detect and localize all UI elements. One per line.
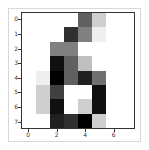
heatmap-cell (78, 13, 92, 27)
heatmap-cell (22, 99, 36, 113)
heatmap-cell (106, 85, 120, 99)
heatmap-cell (22, 71, 36, 85)
heatmap-cell (22, 13, 36, 27)
heatmap-cell (64, 85, 78, 99)
y-tick-mark (18, 107, 21, 108)
x-tick-label: 2 (52, 132, 62, 138)
y-tick-mark (18, 34, 21, 35)
heatmap-cell (36, 85, 50, 99)
heatmap-cell (22, 42, 36, 56)
x-tick-mark (85, 129, 86, 132)
y-tick-mark (18, 63, 21, 64)
heatmap-cell (22, 56, 36, 70)
y-tick-mark (18, 49, 21, 50)
heatmap-cell (78, 99, 92, 113)
heatmap-cell (36, 13, 50, 27)
y-tick-mark (18, 122, 21, 123)
heatmap-cell (78, 56, 92, 70)
heatmap-cell (106, 99, 120, 113)
x-tick-mark (28, 129, 29, 132)
y-tick-label: 4 (10, 75, 18, 81)
heatmap-cell (120, 56, 134, 70)
heatmap-cell (36, 42, 50, 56)
plot-axes (21, 12, 135, 129)
x-tick-label: 0 (23, 132, 33, 138)
y-tick-label: 6 (10, 104, 18, 110)
x-tick-mark (114, 129, 115, 132)
heatmap-cell (92, 85, 106, 99)
heatmap-image (22, 13, 134, 128)
heatmap-cell (106, 13, 120, 27)
heatmap-cell (64, 27, 78, 41)
x-tick-label: 6 (109, 132, 119, 138)
y-tick-mark (18, 78, 21, 79)
heatmap-cell (50, 56, 64, 70)
y-tick-label: 0 (10, 16, 18, 22)
heatmap-cell (50, 13, 64, 27)
heatmap-cell (120, 99, 134, 113)
heatmap-cell (22, 85, 36, 99)
y-tick-label: 3 (10, 60, 18, 66)
heatmap-cell (64, 42, 78, 56)
heatmap-cell (106, 71, 120, 85)
heatmap-cell (92, 13, 106, 27)
heatmap-cell (22, 114, 36, 128)
heatmap-cell (50, 114, 64, 128)
heatmap-cell (36, 71, 50, 85)
heatmap-cell (50, 71, 64, 85)
heatmap-cell (78, 42, 92, 56)
heatmap-cell (106, 42, 120, 56)
heatmap-cell (36, 56, 50, 70)
y-tick-mark (18, 19, 21, 20)
heatmap-cell (78, 85, 92, 99)
heatmap-cell (120, 13, 134, 27)
heatmap-cell (78, 71, 92, 85)
heatmap-cell (50, 42, 64, 56)
heatmap-cell (120, 42, 134, 56)
heatmap-cell (92, 71, 106, 85)
heatmap-cell (64, 99, 78, 113)
heatmap-cell (92, 42, 106, 56)
heatmap-cell (50, 27, 64, 41)
heatmap-cell (50, 85, 64, 99)
heatmap-cell (106, 114, 120, 128)
heatmap-cell (50, 99, 64, 113)
heatmap-cell (78, 114, 92, 128)
x-tick-mark (57, 129, 58, 132)
heatmap-cell (106, 56, 120, 70)
heatmap-cell (64, 114, 78, 128)
heatmap-cell (64, 13, 78, 27)
heatmap-cell (92, 99, 106, 113)
y-tick-label: 2 (10, 46, 18, 52)
heatmap-cell (92, 114, 106, 128)
x-tick-label: 4 (80, 132, 90, 138)
y-tick-label: 5 (10, 89, 18, 95)
heatmap-cell (78, 27, 92, 41)
heatmap-cell (64, 56, 78, 70)
heatmap-cell (36, 114, 50, 128)
heatmap-cell (120, 85, 134, 99)
heatmap-cell (106, 27, 120, 41)
heatmap-cell (120, 27, 134, 41)
heatmap-cell (22, 27, 36, 41)
y-tick-label: 7 (10, 119, 18, 125)
heatmap-cell (36, 99, 50, 113)
y-tick-mark (18, 92, 21, 93)
heatmap-cell (120, 71, 134, 85)
heatmap-cell (92, 27, 106, 41)
heatmap-cell (36, 27, 50, 41)
heatmap-cell (120, 114, 134, 128)
heatmap-cell (64, 71, 78, 85)
heatmap-cell (92, 56, 106, 70)
y-tick-label: 1 (10, 31, 18, 37)
